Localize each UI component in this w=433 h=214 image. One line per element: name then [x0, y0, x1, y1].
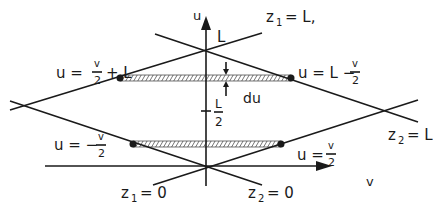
svg-text:z: z — [266, 8, 274, 26]
svg-text:= L: = L — [407, 126, 433, 144]
svg-text:2: 2 — [98, 147, 105, 160]
diagram-canvas: u v du L L 2 z — [0, 0, 433, 214]
boundary-lines — [10, 33, 418, 185]
svg-text:2: 2 — [94, 74, 101, 87]
label-z1-0: z 1 = 0 — [121, 184, 167, 204]
v-axis-label: v — [366, 174, 374, 189]
svg-text:u =: u = — [297, 146, 324, 164]
v-axis: v — [45, 161, 374, 189]
du-down-arrow-icon — [223, 69, 229, 75]
svg-text:2: 2 — [398, 135, 404, 146]
equation-lower-left: u = − v 2 — [54, 131, 106, 160]
upper-hatched-strip — [120, 75, 291, 81]
svg-text:= 0: = 0 — [140, 184, 167, 202]
du-marker: du — [223, 62, 261, 106]
svg-text:u = L −: u = L − — [298, 64, 355, 82]
lower-hatched-strip — [133, 141, 281, 147]
equation-upper-right: u = L − v 2 — [298, 58, 360, 87]
svg-text:v: v — [98, 131, 104, 142]
du-up-arrow-icon — [223, 81, 229, 87]
label-z2-0: z 2 = 0 — [248, 184, 294, 204]
svg-text:z: z — [248, 184, 256, 202]
svg-text:u =: u = — [56, 64, 83, 82]
dot-upper-right — [288, 75, 295, 82]
svg-text:1: 1 — [276, 17, 282, 28]
svg-text:2: 2 — [328, 156, 335, 169]
dot-lower-right — [278, 141, 285, 148]
label-z2-L: z 2 = L — [388, 126, 433, 146]
svg-text:2: 2 — [258, 193, 264, 204]
u-axis-label: u — [193, 8, 201, 23]
svg-text:z: z — [388, 126, 396, 144]
dot-lower-left — [130, 141, 137, 148]
top-L-label: L — [217, 28, 226, 46]
u-axis-arrow-icon — [201, 16, 211, 30]
svg-text:L: L — [215, 97, 222, 111]
svg-text:2: 2 — [215, 115, 223, 129]
svg-text:2: 2 — [352, 74, 359, 87]
svg-text:+ L: + L — [106, 64, 132, 82]
svg-text:= L,: = L, — [285, 8, 315, 26]
svg-text:v: v — [352, 58, 358, 69]
u-axis: u — [193, 8, 211, 186]
svg-text:v: v — [328, 140, 334, 151]
svg-text:1: 1 — [131, 193, 137, 204]
svg-text:= 0: = 0 — [267, 184, 294, 202]
half-L-label: L 2 — [201, 97, 223, 129]
svg-text:v: v — [94, 58, 100, 69]
du-label: du — [243, 90, 261, 106]
svg-text:u = −: u = − — [54, 136, 98, 154]
equation-upper-left: u = v 2 + L — [56, 58, 132, 87]
svg-text:z: z — [121, 184, 129, 202]
label-z1-L: z 1 = L, — [266, 8, 315, 28]
